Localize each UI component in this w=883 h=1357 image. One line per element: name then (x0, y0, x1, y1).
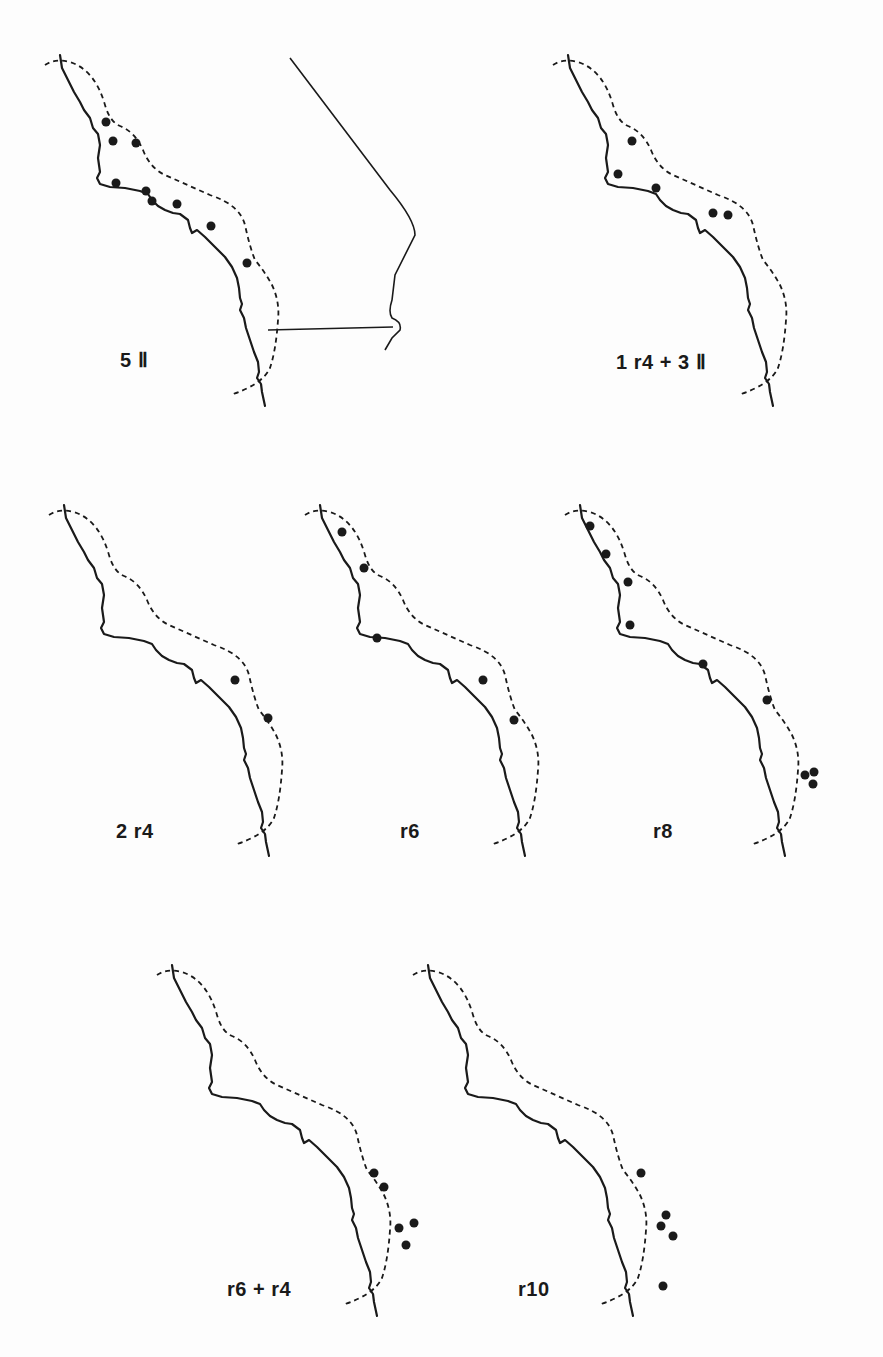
range-boundary (45, 61, 278, 395)
map-svg (44, 500, 344, 880)
map-svg (560, 500, 860, 880)
range-boundary (305, 511, 538, 845)
map-panel-r6: r6 (300, 500, 580, 880)
panel-label: 1 r4 + 3 Ⅱ (616, 350, 706, 374)
locality-dots (614, 137, 733, 220)
map-svg (40, 50, 440, 430)
map-panel-1r4-3II: 1 r4 + 3 Ⅱ (548, 50, 848, 430)
map-svg (408, 960, 708, 1350)
coastline (60, 55, 265, 406)
panel-label: r6 (400, 820, 420, 843)
range-boundary (565, 511, 798, 845)
state-border-line (268, 327, 393, 330)
locality-dots (586, 522, 819, 789)
locality-dots (102, 118, 252, 268)
range-boundary (157, 971, 390, 1305)
range-boundary (49, 511, 282, 845)
map-svg (152, 960, 452, 1350)
map-panel-r8: r8 (560, 500, 860, 880)
coastline (580, 505, 785, 856)
inland-border (290, 58, 415, 350)
coastline (428, 965, 633, 1316)
panel-label: 5 Ⅱ (120, 348, 148, 372)
panel-label: r6 + r4 (227, 1278, 291, 1301)
panel-label: 2 r4 (116, 820, 154, 843)
coastline (172, 965, 377, 1316)
map-svg (300, 500, 580, 880)
map-panel-5II: 5 Ⅱ (40, 50, 440, 430)
range-boundary (413, 971, 646, 1305)
panel-label: r10 (518, 1278, 550, 1301)
panel-label: r8 (653, 820, 673, 843)
map-panel-r10: r10 (408, 960, 708, 1350)
map-panel-2r4: 2 r4 (44, 500, 344, 880)
range-boundary (553, 61, 786, 395)
map-panel-r6-r4: r6 + r4 (152, 960, 452, 1350)
locality-dots (637, 1169, 678, 1291)
coastline (320, 505, 525, 856)
